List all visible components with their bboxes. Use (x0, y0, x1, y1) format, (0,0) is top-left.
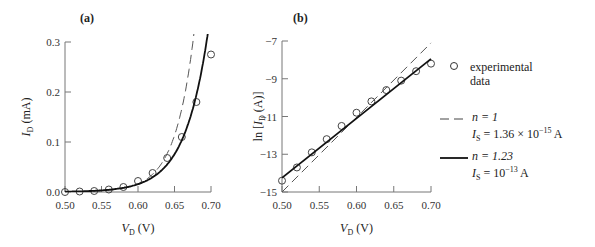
x-tick-label: 0.70 (421, 199, 441, 211)
x-tick-label: 0.55 (310, 199, 330, 211)
panel-label: (b) (293, 11, 308, 25)
y-tick-label: −9 (265, 73, 277, 85)
y-tick-label: 0.3 (46, 36, 60, 48)
data-point (353, 109, 360, 116)
x-tick-label: 0.50 (272, 199, 292, 211)
solid-fit-line (282, 59, 431, 178)
data-point (208, 51, 215, 58)
x-tick-label: 0.50 (55, 199, 75, 211)
y-tick-label: −13 (260, 148, 278, 160)
y-tick-label: 0.0 (46, 186, 60, 198)
y-tick-label: −7 (265, 35, 277, 47)
y-axis-label: ID (mA) (19, 98, 35, 138)
x-tick-label: 0.65 (384, 199, 404, 211)
x-tick-label: 0.55 (92, 199, 112, 211)
x-tick-label: 0.60 (347, 199, 367, 211)
solid-fit-line (65, 10, 211, 192)
legend-solid-line-icon (440, 155, 470, 161)
y-tick-label: 0.2 (46, 86, 60, 98)
x-tick-label: 0.60 (128, 199, 148, 211)
x-tick-label: 0.65 (165, 199, 185, 211)
x-axis-label: VD (V) (122, 221, 155, 237)
legend-dashed-label: n = 1 IS = 1.36 × 10−15 A (472, 110, 563, 146)
y-tick-label: 0.1 (46, 136, 60, 148)
y-axis-label: ln [ID (A)] (251, 92, 267, 142)
legend-circle-icon (444, 59, 464, 73)
legend-exp-label: experimental data (470, 60, 533, 88)
panel-b: (b)0.500.550.600.650.70−7−9−11−13−15VD (… (251, 11, 441, 237)
dashed-fit-line (65, 0, 211, 192)
legend: experimental data n = 1 IS = 1.36 × 10−1… (440, 0, 595, 247)
x-tick-label: 0.70 (201, 199, 221, 211)
panel-a: (a)0.500.550.600.650.700.00.10.20.3VD (V… (19, 0, 221, 237)
legend-solid-label: n = 1.23 IS = 10−13 A (472, 149, 529, 185)
panel-label: (a) (80, 11, 94, 25)
x-axis-label: VD (V) (340, 221, 373, 237)
y-tick-label: −15 (260, 186, 278, 198)
legend-dashed-line-icon (440, 116, 470, 122)
